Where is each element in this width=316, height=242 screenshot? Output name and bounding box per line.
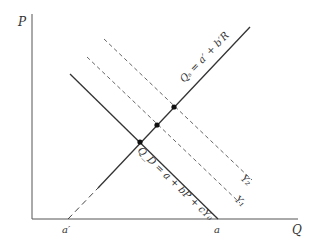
demand-curve-label: Q_D = a + bP + cY₀ [135, 145, 216, 224]
equilibrium-point-0 [137, 139, 142, 144]
x-axis-label: Q [292, 223, 302, 237]
equilibrium-point-1 [154, 122, 159, 127]
demand-intercept-label: a [214, 224, 220, 235]
y-axis-label: P [17, 15, 27, 29]
supply-curve-dashed-segment [68, 188, 98, 219]
equilibrium-point-2 [171, 104, 176, 109]
demand-shift-2-label: Y₂ [239, 173, 254, 188]
supply-intercept-label: a′ [62, 224, 71, 235]
demand-curve-y1 [87, 57, 240, 203]
demand-shift-1-label: Y₁ [233, 194, 248, 209]
supply-demand-diagram: P Q a′ a Qₛ = a′ + b′R Q_D = a + bP + cY… [0, 0, 316, 242]
